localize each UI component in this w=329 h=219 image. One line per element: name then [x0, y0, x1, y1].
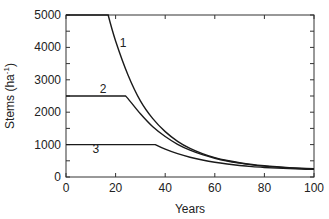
x-tick-label: 60 [208, 181, 222, 195]
series-line-2 [66, 96, 314, 169]
x-tick-label: 40 [159, 181, 173, 195]
y-axis-label: Stems (ha-1) [2, 63, 17, 129]
x-tick-label: 0 [63, 181, 70, 195]
series-label-2: 2 [100, 82, 107, 96]
y-tick-label: 2000 [34, 105, 61, 119]
y-tick-label: 3000 [34, 73, 61, 87]
y-tick-label: 4000 [34, 40, 61, 54]
series-label-3: 3 [92, 142, 99, 156]
y-tick-label: 0 [54, 170, 61, 184]
y-tick-label: 5000 [34, 8, 61, 22]
x-tick-label: 20 [109, 181, 123, 195]
x-tick-label: 100 [304, 181, 324, 195]
stems-over-years-chart: 020406080100 010002000300040005000 123 Y… [0, 0, 329, 219]
x-tick-label: 80 [258, 181, 272, 195]
y-tick-label: 1000 [34, 138, 61, 152]
x-axis-label: Years [175, 202, 205, 216]
series-label-1: 1 [120, 36, 127, 50]
